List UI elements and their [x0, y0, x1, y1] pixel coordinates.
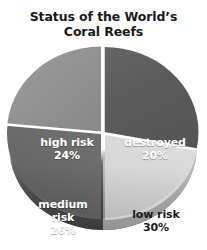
- slice-label-high-risk-value: 24%: [25, 149, 109, 162]
- chart-title-line-2: Coral Reefs: [0, 24, 207, 39]
- chart-title-line-1: Status of the World’s: [0, 9, 207, 24]
- slice-label-medium-risk-value: 26%: [23, 224, 103, 237]
- slice-label-low-risk-value: 30%: [115, 221, 197, 234]
- slice-label-destroyed: destroyed 20%: [113, 136, 197, 162]
- pie-chart: destroyed 20% high risk 24% medium risk …: [9, 48, 197, 244]
- slice-label-medium-risk: medium risk 26%: [23, 198, 103, 237]
- slice-label-low-risk: low risk 30%: [115, 208, 197, 234]
- slice-label-high-risk: high risk 24%: [25, 136, 109, 162]
- slice-label-destroyed-name: destroyed: [113, 136, 197, 149]
- slice-label-low-risk-name: low risk: [115, 208, 197, 221]
- slice-label-medium-risk-name-line-1: medium: [23, 198, 103, 211]
- slice-label-high-risk-name: high risk: [25, 136, 109, 149]
- slice-label-medium-risk-name-line-2: risk: [23, 211, 103, 224]
- slice-label-destroyed-value: 20%: [113, 149, 197, 162]
- chart-title: Status of the World’s Coral Reefs: [0, 9, 207, 39]
- pie-disc: [9, 48, 197, 218]
